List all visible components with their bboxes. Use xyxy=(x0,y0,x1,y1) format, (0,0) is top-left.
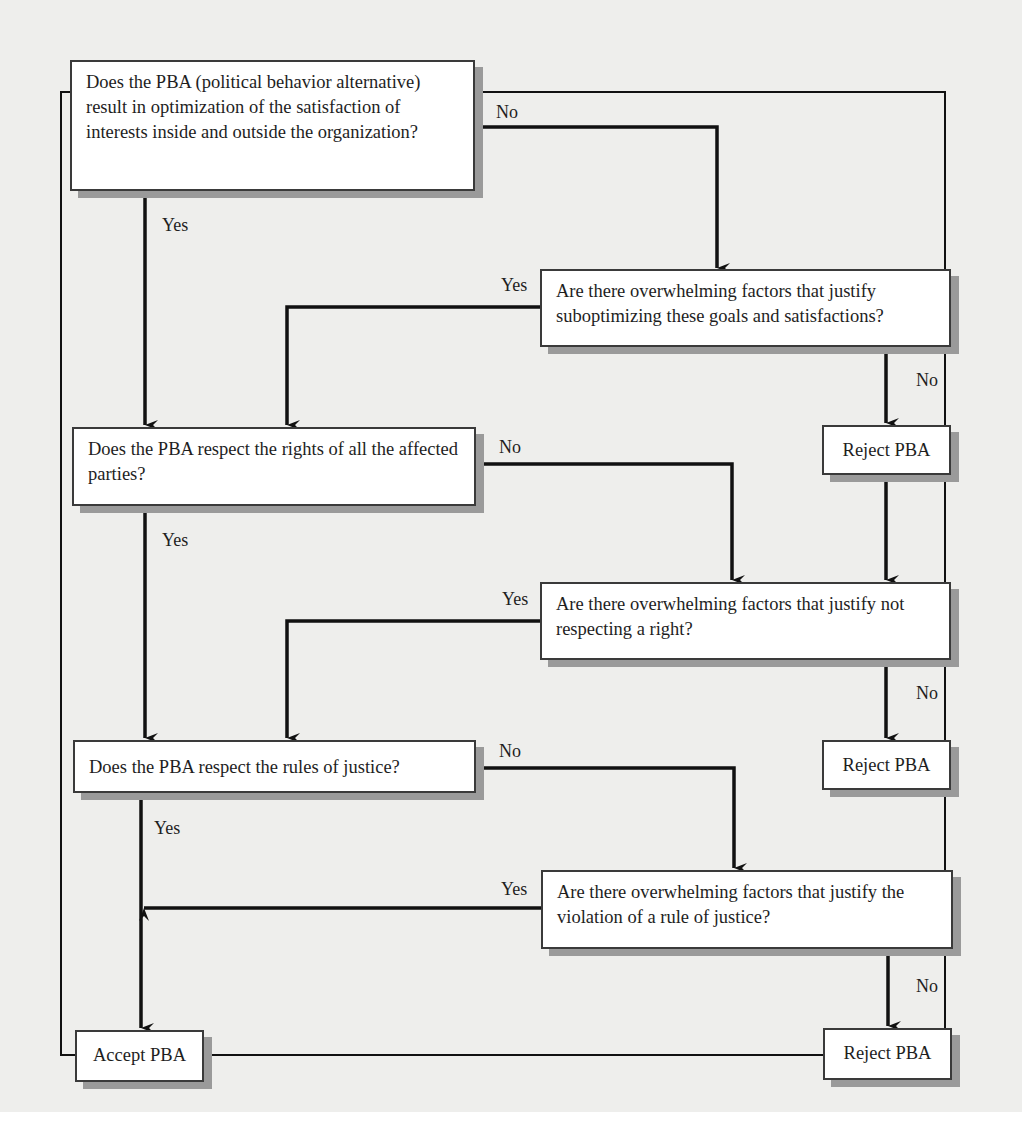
terminal-text: Reject PBA xyxy=(844,1043,932,1063)
outer-left-line xyxy=(61,92,75,1055)
terminal-text: Reject PBA xyxy=(843,755,931,775)
edge-label-q1-no: No xyxy=(496,102,518,123)
decision-text: Are there overwhelming factors that just… xyxy=(556,281,884,326)
decision-box-justice: Does the PBA respect the rules of justic… xyxy=(73,740,476,793)
edge-label-q1b-no: No xyxy=(916,370,938,391)
terminal-text: Reject PBA xyxy=(843,440,931,460)
reject-pba-box-2: Reject PBA xyxy=(822,740,951,790)
edge-label-q1b-yes: Yes xyxy=(501,275,527,296)
edge-label-q3-no: No xyxy=(499,741,521,762)
decision-text: Are there overwhelming factors that just… xyxy=(557,882,904,927)
decision-box-rights: Does the PBA respect the rights of all t… xyxy=(72,427,476,506)
edge-label-q2-no: No xyxy=(499,437,521,458)
decision-text: Does the PBA respect the rights of all t… xyxy=(88,439,458,484)
decision-text: Does the PBA respect the rules of justic… xyxy=(89,757,400,777)
decision-box-rights-factors: Are there overwhelming factors that just… xyxy=(540,582,951,660)
terminal-text: Accept PBA xyxy=(93,1045,186,1065)
reject-pba-box-1: Reject PBA xyxy=(822,425,951,475)
decision-box-suboptimize-factors: Are there overwhelming factors that just… xyxy=(540,269,951,347)
edge-label-q3b-yes: Yes xyxy=(501,879,527,900)
reject-pba-box-3: Reject PBA xyxy=(823,1028,952,1080)
edge-label-q3b-no: No xyxy=(916,976,938,997)
decision-box-justice-factors: Are there overwhelming factors that just… xyxy=(541,870,953,949)
edge-label-q3-yes: Yes xyxy=(154,818,180,839)
edge-label-q2-yes: Yes xyxy=(162,530,188,551)
edge-label-q2b-yes: Yes xyxy=(502,589,528,610)
decision-text: Are there overwhelming factors that just… xyxy=(556,594,904,639)
edge-label-q1-yes: Yes xyxy=(162,215,188,236)
edge-label-q2b-no: No xyxy=(916,683,938,704)
decision-box-optimization: Does the PBA (political behavior alterna… xyxy=(70,60,475,191)
accept-pba-box: Accept PBA xyxy=(75,1030,204,1082)
decision-text: Does the PBA (political behavior alterna… xyxy=(86,72,420,142)
